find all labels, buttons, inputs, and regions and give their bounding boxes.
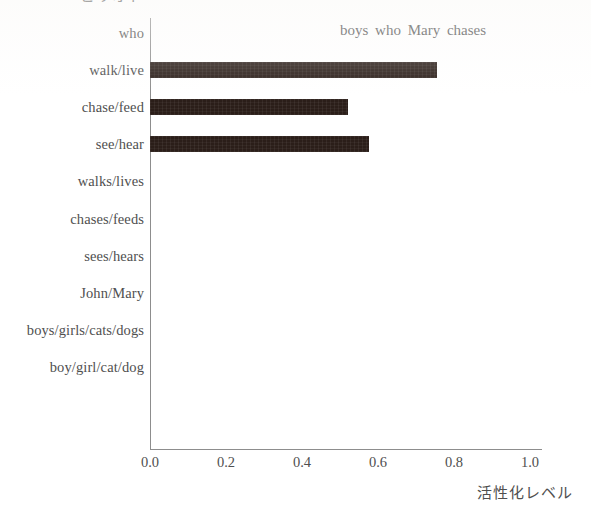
- y-axis-label: see/hear: [0, 136, 144, 152]
- bar: [150, 99, 348, 115]
- y-axis-label: chases/feeds: [0, 211, 144, 227]
- x-axis-tick-labels: 0.00.20.40.60.81.0: [0, 452, 591, 474]
- y-axis-title: ピリオド: [0, 0, 144, 4]
- y-axis-label: chase/feed: [0, 99, 144, 115]
- x-axis-tick-label: 0.4: [272, 452, 332, 472]
- y-axis-category-labels: ピリオドwhowalk/livechase/feedsee/hearwalks/…: [0, 18, 144, 450]
- x-axis-title: 活性化レベル: [477, 481, 573, 502]
- x-axis-tick-label: 0.2: [196, 452, 256, 472]
- x-axis-tick-label: 1.0: [500, 452, 560, 472]
- y-axis-label: walk/live: [0, 62, 144, 78]
- y-axis-label: boys/girls/cats/dogs: [0, 322, 144, 338]
- y-axis-label: who: [0, 25, 144, 41]
- x-axis-tick-label: 0.8: [424, 452, 484, 472]
- bar: [150, 136, 369, 152]
- bar-chart-figure: boys who Mary chases ピリオドwhowalk/livecha…: [0, 0, 591, 527]
- x-axis-tick-label: 0.6: [348, 452, 408, 472]
- caption-remnant: [195, 515, 445, 527]
- plot-area: [150, 18, 530, 450]
- y-axis-label: walks/lives: [0, 173, 144, 189]
- bar: [150, 62, 437, 78]
- y-axis-label: sees/hears: [0, 248, 144, 264]
- y-axis-label: boy/girl/cat/dog: [0, 359, 144, 375]
- x-axis-tick-label: 0.0: [120, 452, 180, 472]
- y-axis-label: John/Mary: [0, 285, 144, 301]
